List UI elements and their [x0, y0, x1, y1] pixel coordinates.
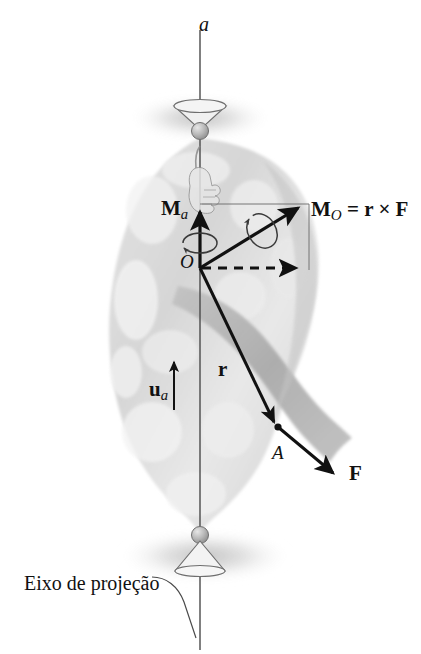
top-bearing-ball: [192, 123, 209, 140]
vector-label-r: r: [218, 359, 227, 380]
origin-label-O: O: [180, 252, 194, 271]
vector-label-MO-equation: MO = r × F: [311, 199, 408, 223]
MO-letter: M: [311, 197, 331, 221]
figure-root: a Ma MO = r × F O r ua A F Eixo de proje…: [0, 0, 421, 654]
MO-equation-rest: = r × F: [342, 197, 409, 221]
axis-label-a: a: [199, 14, 209, 34]
point-label-A: A: [272, 443, 284, 462]
diagram-canvas: [0, 0, 421, 654]
vector-label-F: F: [349, 463, 362, 484]
MO-subscript: O: [331, 207, 342, 223]
projection-axis-caption: Eixo de projeção: [24, 573, 160, 593]
vector-label-ua: ua: [149, 379, 168, 403]
ua-subscript: a: [161, 387, 168, 403]
vector-label-Ma: Ma: [161, 198, 188, 222]
ua-letter: u: [149, 377, 161, 401]
Ma-letter: M: [161, 196, 181, 220]
Ma-subscript: a: [181, 206, 188, 222]
bottom-bearing-cone-base: [175, 566, 225, 577]
top-bearing-cone-rim: [174, 100, 226, 113]
